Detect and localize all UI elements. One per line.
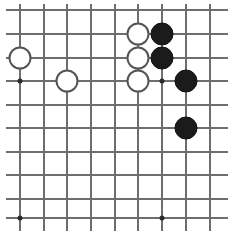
grid-line-vertical-0 bbox=[19, 4, 21, 231]
grid-line-vertical-2 bbox=[66, 4, 68, 231]
grid-line-vertical-1 bbox=[43, 4, 45, 231]
grid-line-vertical-4 bbox=[114, 4, 116, 231]
white-stone-cluster-middle[interactable] bbox=[127, 47, 150, 70]
go-board-diagram bbox=[0, 0, 234, 235]
grid-line-vertical-8 bbox=[209, 4, 211, 231]
go-board-surface[interactable] bbox=[0, 0, 234, 235]
grid-line-horizontal-4 bbox=[6, 104, 228, 106]
black-stone-cluster-top[interactable] bbox=[151, 23, 174, 46]
grid-line-horizontal-8 bbox=[6, 198, 228, 200]
grid-line-horizontal-9 bbox=[6, 217, 228, 219]
black-stone-right-upper[interactable] bbox=[175, 70, 198, 93]
star-point-1 bbox=[160, 79, 165, 84]
grid-line-horizontal-7 bbox=[6, 174, 228, 176]
star-point-2 bbox=[18, 216, 23, 221]
black-stone-right-lower[interactable] bbox=[175, 117, 198, 140]
black-stone-cluster-middle[interactable] bbox=[151, 47, 174, 70]
grid-line-horizontal-2 bbox=[6, 57, 228, 59]
grid-line-horizontal-0 bbox=[6, 9, 228, 11]
grid-line-vertical-3 bbox=[90, 4, 92, 231]
white-stone-left-upper[interactable] bbox=[9, 47, 32, 70]
grid-line-horizontal-1 bbox=[6, 33, 228, 35]
star-point-0 bbox=[18, 79, 23, 84]
grid-line-horizontal-6 bbox=[6, 151, 228, 153]
white-stone-left-lower[interactable] bbox=[56, 70, 79, 93]
star-point-3 bbox=[160, 216, 165, 221]
white-stone-cluster-bottom[interactable] bbox=[127, 70, 150, 93]
white-stone-cluster-top[interactable] bbox=[127, 23, 150, 46]
